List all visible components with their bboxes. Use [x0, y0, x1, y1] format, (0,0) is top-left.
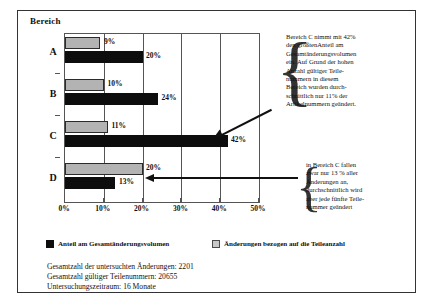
category-label-b: B: [45, 88, 61, 99]
x-tick-mark-50: [258, 198, 259, 203]
bar-d-teileanzahl: [65, 163, 143, 175]
legend-swatch-gray: [212, 240, 220, 248]
legend-label-volumen: Anteil am Gesamtänderungsvolumen: [58, 240, 169, 248]
x-tick-mark-10: [103, 198, 104, 203]
bar-a-teileanzahl: [65, 37, 100, 49]
x-tick-label-10: 10%: [95, 204, 110, 213]
bar-a-volumen: [65, 51, 143, 63]
x-tick-label-50: 50%: [251, 204, 266, 213]
annotation-line: zwar nur 13 % aller: [306, 169, 411, 177]
x-tick-label-20: 20%: [134, 204, 149, 213]
legend-swatch-black: [46, 240, 54, 248]
x-tick-mark-30: [180, 198, 181, 203]
annotation-d-parts-leader: [153, 177, 298, 179]
bar-label-b-teileanzahl: 10%: [108, 79, 123, 89]
bar-row-c: C 11% 42%: [65, 118, 259, 160]
x-tick-mark-40: [219, 198, 220, 203]
bar-row-b: B 10% 24%: [65, 76, 259, 118]
legend-item-volumen: Anteil am Gesamtänderungsvolumen: [46, 240, 169, 248]
bar-label-d-volumen: 13%: [119, 177, 134, 187]
bar-b-volumen: [65, 93, 158, 105]
bar-label-c-teileanzahl: 11%: [112, 121, 127, 131]
x-tick-label-0: 0%: [58, 204, 69, 213]
footnote-period: Untersuchungszeitraum: 16 Monate: [47, 282, 194, 292]
bar-b-teileanzahl: [65, 79, 104, 91]
axis-minor-tick-c: [55, 157, 60, 158]
legend-label-teileanzahl: Änderungen bezogen auf die Teileanzahl: [224, 240, 345, 248]
x-tick-label-40: 40%: [212, 204, 227, 213]
annotation-d-parts-text: in Bereich C fallen zwar nur 13 % aller …: [306, 161, 411, 211]
annotation-line: Anzahl gültiger Teile-: [286, 67, 404, 75]
category-label-a: A: [45, 46, 61, 57]
footnote-total-partnumbers: Gesamtzahl gültiger Teilenummern: 20655: [47, 272, 194, 282]
annotation-line: Bereich C nimmt mit 42%: [286, 33, 404, 41]
x-tick-mark-0: [64, 198, 65, 203]
chart-title: Bereich: [30, 16, 61, 26]
annotation-line: ein. Auf Grund der hohen: [286, 58, 404, 66]
bar-label-c-volumen: 42%: [231, 135, 246, 145]
bar-label-a-volumen: 20%: [146, 51, 161, 61]
annotation-line: nummern in diesem: [286, 75, 404, 83]
annotation-line: Änderungen an,: [306, 178, 411, 186]
annotation-c-volume-text: Bereich C nimmt mit 42% den größtenAntei…: [286, 33, 404, 109]
bar-row-d: D 20% 13%: [65, 160, 259, 202]
annotation-line: aber jede fünfte Teile-: [306, 195, 411, 203]
chart-figure-frame: Bereich A 9% 20% B 10% 24% C: [17, 10, 416, 293]
footnote-total-changes: Gesamtzahl der untersuchten Änderungen: …: [47, 262, 194, 272]
bar-c-volumen: [65, 135, 228, 147]
bar-d-volumen: [65, 177, 115, 189]
annotation-line: in Bereich C fallen: [306, 161, 411, 169]
annotation-line: Gesamtänderungsvolumen: [286, 50, 404, 58]
annotation-line: durchschnittlich wird: [306, 186, 411, 194]
axis-minor-tick-b: [55, 115, 60, 116]
annotation-line: nummer geändert: [306, 203, 411, 211]
annotation-line: Artikelnummern geändert.: [286, 100, 404, 108]
legend-item-teileanzahl: Änderungen bezogen auf die Teileanzahl: [212, 240, 345, 248]
annotation-d-parts-arrowhead: [145, 174, 154, 182]
category-label-c: C: [45, 130, 61, 141]
chart-footnotes: Gesamtzahl der untersuchten Änderungen: …: [47, 262, 194, 292]
axis-minor-tick-a: [55, 73, 60, 74]
bar-label-d-teileanzahl: 20%: [146, 163, 161, 173]
category-label-d: D: [45, 172, 61, 183]
annotation-line: Bereich wurden durch-: [286, 83, 404, 91]
annotation-line: den größtenAnteil am: [286, 41, 404, 49]
annotation-line: schnittlich nur 11% der: [286, 92, 404, 100]
x-axis: 0% 10% 20% 30% 40% 50%: [64, 204, 260, 218]
bar-row-a: A 9% 20%: [65, 34, 259, 76]
bar-label-a-teileanzahl: 9%: [104, 37, 115, 47]
x-tick-label-30: 30%: [173, 204, 188, 213]
bar-label-b-volumen: 24%: [162, 93, 177, 103]
x-tick-mark-20: [142, 198, 143, 203]
bar-c-teileanzahl: [65, 121, 108, 133]
